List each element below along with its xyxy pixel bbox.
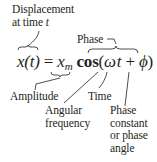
angular-frequency-line1: Angular (45, 104, 82, 116)
angular-frequency-line2: frequency (45, 117, 90, 129)
amplitude-label: Amplitude (10, 90, 58, 103)
displacement-label-line1: Displacement (12, 3, 74, 15)
equation-plus: + (125, 52, 134, 71)
equation-amplitude-subscript: m (65, 60, 73, 72)
equation-equals: = (44, 52, 53, 71)
phase-constant-label: Phase constant or phase angle (110, 104, 148, 154)
time-leader (99, 72, 107, 88)
displacement-leader (28, 31, 39, 46)
amplitude-leader (35, 78, 60, 90)
equation-amplitude-symbol: x (57, 52, 64, 71)
equation-t: t (117, 52, 122, 71)
angular-frequency-label: Angular frequency (45, 104, 90, 129)
brace-over-xt (18, 45, 38, 50)
phase-constant-line1: Phase (110, 104, 136, 116)
phase-label: Phase (77, 33, 103, 46)
displacement-label-line2: at time (12, 16, 43, 28)
time-label: Time (88, 90, 111, 103)
phase-constant-leader (125, 72, 129, 106)
phase-constant-line4: angle (110, 142, 134, 154)
displacement-label-t: t (46, 16, 49, 28)
equation: x(t) = xm cos(ωt + ϕ) (17, 52, 153, 73)
equation-lhs: x(t) (17, 52, 40, 71)
phase-constant-line3: or phase (110, 129, 148, 141)
equation-omega: ω (104, 52, 116, 71)
phase-leader (107, 39, 116, 44)
displacement-label: Displacement at time t (12, 3, 74, 28)
phase-constant-line2: constant (110, 117, 148, 129)
equation-close-paren: ) (147, 52, 152, 71)
equation-cos: cos (76, 52, 98, 71)
